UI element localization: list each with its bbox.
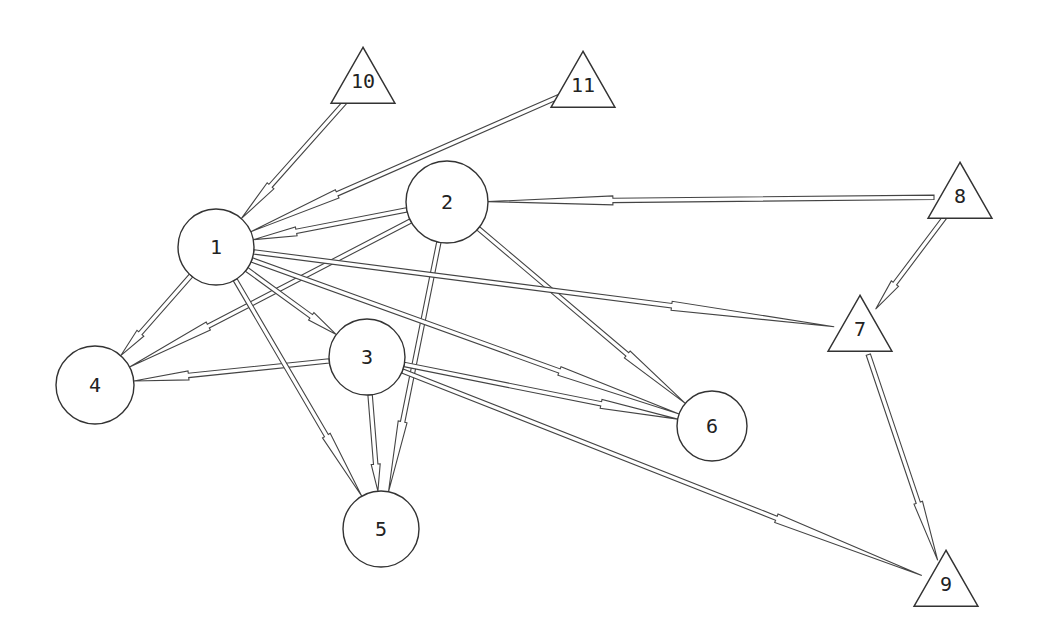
node-8[interactable]: 8 <box>928 162 992 218</box>
edge-8-to-7 <box>876 217 947 310</box>
node-9[interactable]: 9 <box>914 550 978 606</box>
node-7[interactable]: 7 <box>828 295 892 351</box>
node-2[interactable]: 2 <box>406 161 488 243</box>
node-label: 9 <box>940 572 952 596</box>
node-label: 5 <box>375 517 387 541</box>
node-1[interactable]: 1 <box>178 209 254 285</box>
edge-3-to-4 <box>134 359 330 381</box>
node-label: 7 <box>854 317 866 341</box>
node-label: 6 <box>706 414 718 438</box>
edge-1-to-5 <box>233 279 361 497</box>
node-4[interactable]: 4 <box>56 346 134 424</box>
node-5[interactable]: 5 <box>343 491 419 567</box>
node-label: 8 <box>954 184 966 208</box>
edge-8-to-2 <box>488 195 934 205</box>
node-label: 10 <box>351 69 375 93</box>
node-label: 2 <box>441 190 453 214</box>
nodes-layer: 1234567891011 <box>56 47 992 606</box>
network-diagram: 1234567891011 <box>0 0 1042 636</box>
node-10[interactable]: 10 <box>331 47 395 103</box>
node-3[interactable]: 3 <box>329 319 405 395</box>
edge-3-to-6 <box>404 362 678 419</box>
node-label: 4 <box>89 373 101 397</box>
node-label: 3 <box>361 345 373 369</box>
edge-3-to-5 <box>368 395 380 491</box>
edge-7-to-9 <box>866 354 938 561</box>
edge-1-to-7 <box>253 250 834 327</box>
node-11[interactable]: 11 <box>551 51 615 107</box>
edges-layer <box>121 94 946 575</box>
node-label: 11 <box>571 73 595 97</box>
node-label: 1 <box>210 235 222 259</box>
edge-3-to-9 <box>402 369 922 576</box>
node-6[interactable]: 6 <box>677 391 747 461</box>
